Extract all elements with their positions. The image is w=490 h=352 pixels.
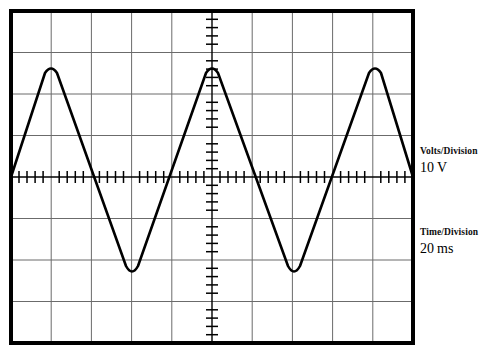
time-value-unit: ms (437, 241, 453, 256)
time-per-division-label: Time/Division (420, 226, 490, 238)
volts-per-division-readout: Volts/Division 10V (420, 145, 490, 177)
volts-value-unit: V (437, 160, 447, 175)
volts-per-division-value: 10V (420, 159, 490, 177)
oscilloscope-figure: Volts/Division 10V Time/Division 20ms (0, 0, 490, 352)
volts-per-division-label: Volts/Division (420, 145, 490, 157)
oscilloscope-screen (0, 0, 490, 352)
volts-value-number: 10 (420, 160, 434, 175)
time-per-division-value: 20ms (420, 240, 490, 258)
time-value-number: 20 (420, 241, 434, 256)
time-per-division-readout: Time/Division 20ms (420, 226, 490, 258)
